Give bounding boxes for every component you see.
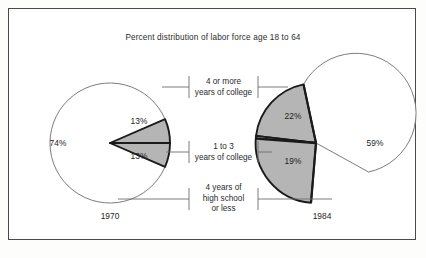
right-pie-label-highschool: 59% xyxy=(357,138,393,148)
left-pie-label-highschool: 74% xyxy=(38,138,78,148)
left-pie-year: 1970 xyxy=(88,211,132,221)
category-label-college1to3: 1 to 3 years of college xyxy=(191,142,256,163)
category-label-highschool: 4 years of high school or less xyxy=(191,183,256,215)
category-label-college4plus-line1: 4 or more xyxy=(191,77,256,88)
category-label-college1to3-line1: 1 to 3 xyxy=(191,142,256,153)
right-pie-slice-college1to3 xyxy=(256,136,316,203)
category-label-highschool-line1: 4 years of xyxy=(191,183,256,194)
category-label-college4plus-line2: years of college xyxy=(191,88,256,99)
left-pie-label-college4plus: 13% xyxy=(122,116,156,126)
right-pie-label-college4plus: 22% xyxy=(276,111,310,121)
right-pie-label-college1to3: 19% xyxy=(276,156,310,166)
left-pie-label-college1to3: 13% xyxy=(122,151,156,161)
category-label-highschool-line3: or less xyxy=(191,204,256,215)
category-label-highschool-line2: high school xyxy=(191,194,256,205)
right-pie-year: 1984 xyxy=(300,211,344,221)
category-label-college4plus: 4 or more years of college xyxy=(191,77,256,98)
category-label-college1to3-line2: years of college xyxy=(191,153,256,164)
figure-container: Percent distribution of labor force age … xyxy=(0,0,426,258)
pie-chart-graphics xyxy=(0,0,426,258)
right-pie-slice-highschool xyxy=(304,53,417,172)
